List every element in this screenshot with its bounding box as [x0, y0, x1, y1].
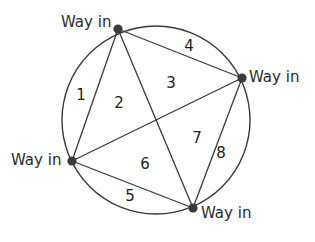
diagram-canvas: Way in Way in Way in Way in 1 2 3 4 5 6 …: [0, 0, 315, 242]
region-label-5: 5: [125, 189, 135, 204]
region-label-2: 2: [114, 96, 124, 111]
vertex-dot-bottom: [188, 203, 197, 212]
vertex-dot-top: [113, 24, 122, 33]
chord-top-bottom: [118, 29, 193, 208]
way-in-label-top: Way in: [61, 15, 111, 30]
vertex-dot-left: [67, 156, 76, 165]
way-in-label-bottom: Way in: [201, 206, 251, 221]
region-label-3: 3: [166, 76, 176, 91]
region-label-8: 8: [216, 146, 226, 161]
region-label-1: 1: [76, 88, 86, 103]
circle-chord-diagram: [0, 0, 315, 242]
way-in-label-right: Way in: [249, 70, 299, 85]
region-label-7: 7: [192, 131, 202, 146]
region-label-4: 4: [184, 39, 194, 54]
vertex-dot-right: [237, 73, 246, 82]
region-label-6: 6: [140, 157, 150, 172]
way-in-label-left: Way in: [11, 153, 61, 168]
